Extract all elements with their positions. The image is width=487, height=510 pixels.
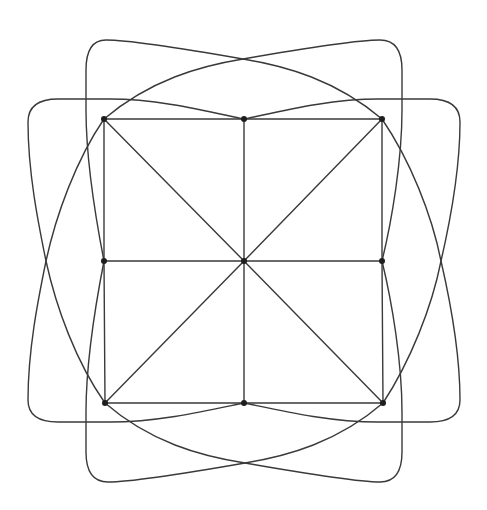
vertex-br [380,400,386,406]
curved-edge-br-ml [86,261,383,482]
edge-tr-c [244,119,382,261]
curved-edge-br-tm [244,99,460,403]
vertex-ml [101,258,107,264]
curved-edge-tr-ml [86,40,382,261]
curved-edge-tr-bm [244,119,460,422]
vertex-tm [241,116,247,122]
vertex-tl [101,116,107,122]
vertex-bm [241,400,247,406]
curved-edge-tl-mr [104,40,402,261]
edge-ml-bl [104,261,105,403]
vertex-mr [379,258,385,264]
edge-c-bl [105,261,244,403]
edge-mr-br [382,261,383,403]
vertex-c [241,258,247,264]
curved-edge-bl-tm [28,99,244,403]
curved-edge-tl-bm [28,119,244,422]
vertex-tr [379,116,385,122]
graph-diagram [0,0,487,510]
edge-tl-c [104,119,244,261]
vertex-bl [102,400,108,406]
edge-c-br [244,261,383,403]
curved-edge-bl-mr [105,261,402,482]
